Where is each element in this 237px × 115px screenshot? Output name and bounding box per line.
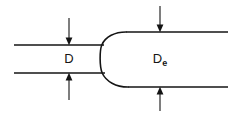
transition-nose-curve	[100, 32, 128, 87]
duct-expansion-diagram: D De	[0, 0, 237, 115]
inlet-top-arrow-head	[66, 38, 73, 46]
exit-diameter-label-subscript: e	[162, 58, 167, 68]
exit-diameter-label-base: D	[153, 51, 162, 66]
exit-top-arrow-head	[157, 25, 164, 33]
exit-bottom-arrow-head	[157, 87, 164, 95]
diagram-canvas: D De	[0, 0, 237, 115]
exit-diameter-label: De	[153, 51, 167, 68]
inlet-bottom-arrow-head	[66, 73, 73, 81]
exit-diameter-dimension: De	[153, 6, 167, 111]
inlet-diameter-dimension: D	[64, 18, 73, 100]
inlet-diameter-label: D	[64, 51, 73, 66]
